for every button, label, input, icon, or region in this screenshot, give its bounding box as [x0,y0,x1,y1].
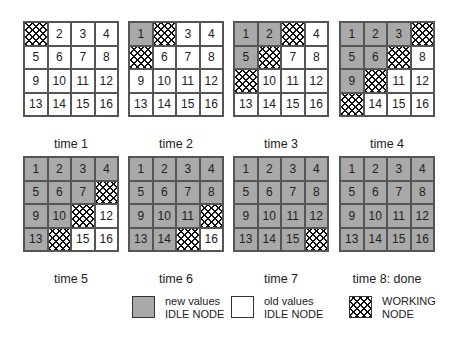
node-cell-old: 4 [200,22,224,46]
node-cell-working: 5 [129,46,153,70]
node-cell-new: 16 [411,228,435,252]
legend-old-line1: old values [264,295,323,308]
node-cell-new: 12 [411,204,435,228]
node-cell-working: 15 [176,228,200,252]
panel-caption: time 8: done [339,272,435,286]
node-cell-old: 14 [153,93,177,117]
panel-time-5: 12345678910111213141516time 5 [23,156,119,252]
node-cell-new: 9 [340,69,364,93]
node-cell-new: 3 [71,157,95,181]
panel-caption: time 2 [128,137,224,151]
node-cell-working: 13 [340,93,364,117]
node-cell-working: 2 [153,22,177,46]
node-cell-old: 4 [95,22,119,46]
node-cell-new: 3 [176,157,200,181]
node-cell-new: 15 [387,228,411,252]
panel-caption: time 3 [233,137,329,151]
node-cell-new: 2 [258,157,282,181]
legend-old-values: old values IDLE NODE [231,296,323,321]
node-cell-new: 5 [234,46,258,70]
node-cell-new: 11 [387,204,411,228]
node-cell-new: 13 [340,228,364,252]
panel-caption: time 7 [233,272,329,286]
node-cell-old: 14 [48,93,72,117]
node-cell-new: 15 [281,228,305,252]
node-cell-new: 3 [387,157,411,181]
node-cell-new: 14 [153,228,177,252]
node-cell-old: 11 [387,69,411,93]
node-cell-old: 15 [387,93,411,117]
node-cell-old: 7 [281,46,305,70]
panel-caption: time 5 [23,272,119,286]
node-cell-old: 14 [364,93,388,117]
node-cell-new: 4 [305,157,329,181]
node-cell-old: 8 [200,46,224,70]
panel-caption: time 4 [339,137,435,151]
node-cell-old: 13 [129,93,153,117]
node-cell-new: 2 [48,157,72,181]
node-cell-old: 7 [71,46,95,70]
node-cell-new: 1 [340,157,364,181]
node-cell-new: 10 [153,204,177,228]
node-cell-new: 1 [234,157,258,181]
node-cell-old: 4 [305,22,329,46]
node-cell-new: 5 [24,181,48,205]
node-cell-old: 12 [95,69,119,93]
node-cell-new: 1 [24,157,48,181]
legend-working: WORKING NODE [349,296,436,321]
node-cell-old: 12 [95,204,119,228]
node-cell-working: 10 [364,69,388,93]
node-grid: 12345678910111213141516 [23,21,119,117]
panel-caption: time 1 [23,137,119,151]
node-cell-old: 15 [71,228,95,252]
node-cell-new: 6 [258,181,282,205]
node-grid: 12345678910111213141516 [128,21,224,117]
node-cell-old: 12 [411,69,435,93]
node-cell-working: 11 [71,204,95,228]
node-cell-new: 8 [411,181,435,205]
legend-new-values: new values IDLE NODE [132,296,224,321]
node-cell-old: 12 [200,69,224,93]
panel-time-8: 12345678910111213141516time 8: done [339,156,435,252]
node-cell-working: 3 [281,22,305,46]
legend-new-line1: new values [165,295,224,308]
node-cell-old: 11 [71,69,95,93]
node-cell-working: 9 [234,69,258,93]
node-cell-new: 9 [24,204,48,228]
node-cell-new: 14 [258,228,282,252]
node-cell-old: 10 [258,69,282,93]
node-cell-new: 5 [234,181,258,205]
node-cell-new: 1 [129,22,153,46]
node-cell-old: 12 [305,69,329,93]
node-cell-new: 11 [176,204,200,228]
legend-new-line2: IDLE NODE [165,308,224,321]
node-cell-old: 13 [24,93,48,117]
node-cell-new: 5 [340,181,364,205]
node-cell-new: 9 [129,204,153,228]
node-cell-old: 16 [305,93,329,117]
node-cell-old: 16 [200,93,224,117]
node-cell-new: 10 [364,204,388,228]
node-cell-old: 16 [95,228,119,252]
node-cell-old: 16 [411,93,435,117]
node-cell-working: 1 [24,22,48,46]
node-cell-old: 16 [95,93,119,117]
node-cell-old: 7 [176,46,200,70]
old-values-swatch-icon [231,296,254,318]
node-cell-new: 3 [281,157,305,181]
node-cell-old: 10 [153,69,177,93]
node-cell-new: 11 [281,204,305,228]
node-cell-new: 6 [48,181,72,205]
panel-time-6: 12345678910111213141516time 6 [128,156,224,252]
node-cell-working: 4 [411,22,435,46]
panel-time-4: 12345678910111213141516time 4 [339,21,435,117]
node-cell-new: 8 [200,181,224,205]
new-values-swatch-icon [132,296,155,318]
node-cell-new: 9 [340,204,364,228]
node-cell-new: 1 [340,22,364,46]
node-cell-old: 9 [129,69,153,93]
node-grid: 12345678910111213141516 [339,156,435,252]
node-cell-old: 8 [411,46,435,70]
node-cell-new: 10 [48,204,72,228]
node-cell-new: 13 [234,228,258,252]
